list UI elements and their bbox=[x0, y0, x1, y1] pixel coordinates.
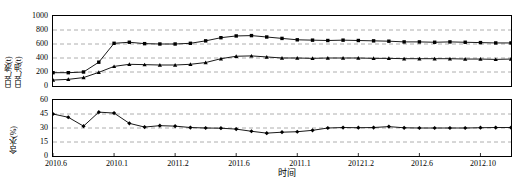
data-point-marker bbox=[494, 125, 498, 129]
xtick-1: 2010.1 bbox=[93, 160, 141, 168]
upper-ytick-200: 200 bbox=[24, 68, 48, 76]
data-point-marker bbox=[448, 126, 452, 130]
data-point-marker bbox=[249, 129, 253, 133]
xtick-5: 20121.2 bbox=[337, 160, 385, 168]
data-point-marker bbox=[479, 41, 482, 44]
data-point-marker bbox=[341, 38, 344, 41]
data-point-marker bbox=[265, 35, 268, 38]
data-point-marker bbox=[265, 131, 269, 135]
data-point-marker bbox=[356, 126, 360, 130]
upper-ytick-600: 600 bbox=[24, 40, 48, 48]
data-point-marker bbox=[478, 126, 482, 130]
series-line-0 bbox=[53, 112, 511, 133]
data-point-marker bbox=[219, 126, 223, 130]
data-point-marker bbox=[402, 40, 405, 43]
data-point-marker bbox=[158, 42, 161, 45]
data-point-marker bbox=[433, 41, 436, 44]
data-point-marker bbox=[204, 126, 208, 130]
data-point-marker bbox=[326, 126, 330, 130]
data-point-marker bbox=[509, 41, 511, 44]
lower-chart-canvas bbox=[53, 100, 511, 156]
lower-chart-plot-area bbox=[52, 99, 512, 157]
series-line-0 bbox=[53, 36, 511, 73]
data-point-marker bbox=[341, 125, 345, 129]
upper-chart-ylabel-liquid: 日产液(t) bbox=[4, 18, 13, 88]
data-point-marker bbox=[311, 38, 314, 41]
data-point-marker bbox=[66, 115, 70, 119]
data-point-marker bbox=[53, 112, 55, 116]
production-water-cut-figure: 日产液(t) 日产油(t) 1000 800 600 400 200 0 含水(… bbox=[0, 0, 519, 179]
data-point-marker bbox=[143, 125, 147, 129]
xtick-2: 2011.2 bbox=[154, 160, 202, 168]
data-point-marker bbox=[128, 41, 131, 44]
upper-chart-canvas bbox=[53, 16, 511, 86]
data-point-marker bbox=[158, 124, 162, 128]
xtick-4: 2011.1 bbox=[276, 160, 324, 168]
data-point-marker bbox=[463, 126, 467, 130]
lower-ytick-15: 15 bbox=[24, 138, 48, 146]
data-point-marker bbox=[494, 41, 497, 44]
data-point-marker bbox=[97, 61, 100, 64]
data-point-marker bbox=[280, 130, 284, 134]
data-point-marker bbox=[372, 125, 376, 129]
data-point-marker bbox=[143, 42, 146, 45]
data-point-marker bbox=[387, 40, 390, 43]
data-point-marker bbox=[173, 42, 176, 45]
upper-chart-plot-area bbox=[52, 15, 512, 87]
lower-ytick-30: 30 bbox=[24, 124, 48, 132]
data-point-marker bbox=[433, 126, 437, 130]
data-point-marker bbox=[189, 42, 192, 45]
data-point-marker bbox=[417, 126, 421, 130]
xaxis-title: 时间 bbox=[278, 168, 296, 178]
data-point-marker bbox=[418, 40, 421, 43]
data-point-marker bbox=[296, 38, 299, 41]
data-point-marker bbox=[509, 125, 511, 129]
upper-ytick-1000: 1000 bbox=[24, 12, 48, 20]
data-point-marker bbox=[280, 37, 283, 40]
data-point-marker bbox=[53, 71, 55, 74]
data-point-marker bbox=[357, 39, 360, 42]
upper-ytick-800: 800 bbox=[24, 26, 48, 34]
data-point-marker bbox=[295, 130, 299, 134]
data-point-marker bbox=[326, 39, 329, 42]
data-point-marker bbox=[464, 41, 467, 44]
upper-ytick-0: 0 bbox=[24, 82, 48, 90]
xtick-7: 2012.10 bbox=[459, 160, 507, 168]
lower-chart-ylabel-watercut: 含水(%) bbox=[9, 104, 18, 154]
xtick-6: 2012.6 bbox=[398, 160, 446, 168]
upper-ytick-400: 400 bbox=[24, 54, 48, 62]
lower-ytick-60: 60 bbox=[24, 96, 48, 104]
data-point-marker bbox=[235, 34, 238, 37]
data-point-marker bbox=[219, 36, 222, 39]
data-point-marker bbox=[67, 71, 70, 74]
data-point-marker bbox=[204, 39, 207, 42]
data-point-marker bbox=[188, 125, 192, 129]
data-point-marker bbox=[310, 128, 314, 132]
upper-chart-ylabel-oil: 日产油(t) bbox=[14, 18, 23, 88]
data-point-marker bbox=[372, 39, 375, 42]
data-point-marker bbox=[82, 70, 85, 73]
xtick-3: 2011.6 bbox=[215, 160, 263, 168]
xtick-0: 2010.6 bbox=[32, 160, 80, 168]
data-point-marker bbox=[402, 126, 406, 130]
data-point-marker bbox=[448, 40, 451, 43]
data-point-marker bbox=[112, 42, 115, 45]
lower-ytick-45: 45 bbox=[24, 110, 48, 118]
data-point-marker bbox=[250, 34, 253, 37]
